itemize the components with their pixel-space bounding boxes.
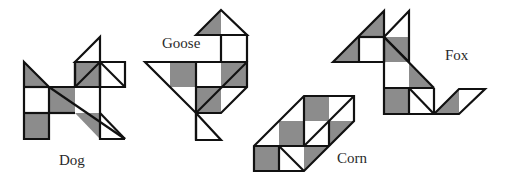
goose-figure	[145, 10, 247, 140]
tangram-figures: .d { fill: #8c8c8c; stroke: none; } .o {…	[0, 0, 509, 177]
label-dog: Dog	[59, 152, 85, 169]
label-corn: Corn	[337, 150, 367, 167]
label-fox: Fox	[445, 47, 468, 64]
label-goose: Goose	[162, 35, 200, 52]
dog-figure	[24, 37, 125, 139]
